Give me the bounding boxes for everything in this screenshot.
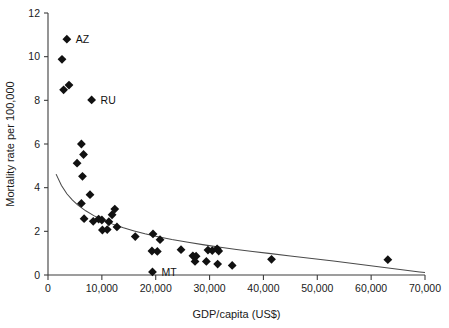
- point-label-mt: MT: [161, 266, 177, 278]
- y-tick-label: 6: [34, 138, 40, 150]
- point-label-ru: RU: [101, 94, 116, 106]
- data-point-marker: [213, 260, 222, 269]
- data-point-marker: [202, 257, 211, 266]
- x-tick-label: 50,000: [301, 282, 333, 294]
- y-tick-label: 12: [28, 7, 40, 19]
- data-point-marker: [267, 255, 276, 264]
- data-point-marker: [131, 232, 140, 241]
- data-point-marker: [103, 225, 112, 234]
- data-point-marker: [177, 245, 186, 254]
- x-tick-label: 20,000: [140, 282, 172, 294]
- scatter-chart-figure: 024681012 010,00020,00030,00040,00050,00…: [0, 0, 449, 328]
- x-axis-title: GDP/capita (US$): [192, 308, 280, 320]
- x-tick-label: 70,000: [409, 282, 441, 294]
- data-point-marker: [149, 230, 158, 239]
- data-point-marker: [228, 261, 237, 270]
- data-point-marker: [73, 159, 82, 168]
- y-axis-title: Mortality rate per 100,000: [4, 81, 16, 206]
- x-tick-label: 10,000: [86, 282, 118, 294]
- data-point-marker: [62, 35, 71, 44]
- data-point-marker: [86, 190, 95, 199]
- data-point-marker: [153, 247, 162, 256]
- data-point-marker: [113, 223, 122, 232]
- data-point-marker: [80, 214, 89, 223]
- y-tick-label: 8: [34, 94, 40, 106]
- x-tick-label: 0: [45, 282, 51, 294]
- y-tick-label: 0: [34, 269, 40, 281]
- point-label-az: AZ: [76, 33, 90, 45]
- data-point-marker: [383, 255, 392, 264]
- y-tick-label: 10: [28, 50, 40, 62]
- data-points: [58, 35, 393, 277]
- x-tick-label: 40,000: [247, 282, 279, 294]
- data-point-marker: [79, 150, 88, 159]
- x-tick-label: 60,000: [355, 282, 387, 294]
- data-point-marker: [77, 199, 86, 208]
- data-point-marker: [87, 96, 96, 105]
- y-tick-label: 2: [34, 225, 40, 237]
- x-tick-label: 30,000: [194, 282, 226, 294]
- data-point-marker: [77, 140, 86, 149]
- x-axis: 010,00020,00030,00040,00050,00060,00070,…: [45, 275, 441, 294]
- chart-canvas: 024681012 010,00020,00030,00040,00050,00…: [0, 0, 449, 328]
- y-axis: 024681012: [28, 7, 48, 281]
- data-point-marker: [78, 172, 87, 181]
- data-point-marker: [58, 55, 67, 64]
- y-tick-label: 4: [34, 181, 40, 193]
